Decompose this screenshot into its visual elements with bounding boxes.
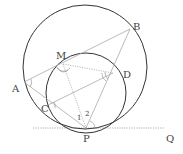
label-point-b: B: [133, 21, 140, 32]
angle-arc-p: [90, 121, 95, 128]
segment-ab: [24, 29, 130, 82]
label-point-p: P: [83, 133, 90, 144]
angle-arc-a: [30, 79, 32, 87]
segment-md: [63, 64, 113, 73]
label-angle-2: 2: [85, 110, 89, 118]
label-point-q: Q: [166, 133, 174, 144]
label-angle-1: 1: [77, 114, 81, 122]
geometry-diagram: A B M D C P Q 1 2: [0, 0, 183, 154]
label-point-a: A: [11, 83, 20, 94]
label-point-m: M: [56, 50, 66, 61]
label-point-c: C: [41, 103, 49, 114]
label-point-d: D: [123, 69, 131, 80]
